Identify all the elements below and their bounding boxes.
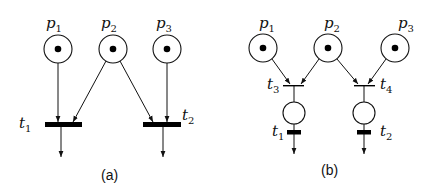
label-p2-a: p2 (101, 14, 117, 34)
place-p2-b (314, 34, 342, 62)
petri-net-figure: p1 p2 p3 t1 t2 (a) (0, 0, 430, 193)
transition-t2-a (143, 122, 181, 127)
token-icon (325, 45, 332, 52)
transition-t2-b (357, 130, 371, 135)
label-t1-b: t1 (272, 122, 284, 142)
label-t2-b: t2 (380, 122, 392, 142)
arc-p2-t1 (73, 61, 106, 122)
arcs-a (58, 61, 167, 157)
label-t3-b: t3 (267, 75, 279, 95)
arc-p2-t2 (120, 61, 153, 122)
place-p3-a (153, 35, 181, 63)
label-p3-a: p3 (156, 14, 172, 34)
label-t4-b: t4 (380, 75, 392, 95)
place-p1-b (249, 34, 277, 62)
label-p1-b: p1 (259, 14, 275, 34)
caption-b: (b) (321, 162, 338, 178)
arc-p2-t3 (301, 59, 319, 84)
label-p2-b: p2 (324, 14, 340, 34)
transition-t4-b (354, 85, 375, 86)
place-p2-a (99, 35, 127, 63)
label-t2-a: t2 (182, 106, 194, 126)
label-p3-b: p3 (398, 14, 414, 34)
label-p1-a: p1 (46, 14, 62, 34)
panel-a: p1 p2 p3 t1 t2 (a) (19, 14, 194, 183)
token-icon (164, 46, 171, 53)
transition-t3-b (283, 85, 304, 86)
token-icon (55, 46, 62, 53)
caption-a: (a) (101, 167, 118, 183)
arc-p1-t3 (272, 59, 290, 84)
label-t1-a: t1 (19, 114, 31, 134)
transition-t1-b (287, 130, 301, 135)
transition-t1-a (45, 122, 82, 127)
token-icon (260, 45, 267, 52)
token-icon (110, 46, 117, 53)
arc-p2-t4 (337, 59, 358, 84)
place-q2-b (353, 102, 375, 124)
token-icon (392, 45, 399, 52)
panel-b: p1 p2 p3 (249, 14, 414, 178)
place-q1-b (283, 102, 305, 124)
place-p3-b (381, 34, 409, 62)
place-p1-a (44, 35, 72, 63)
